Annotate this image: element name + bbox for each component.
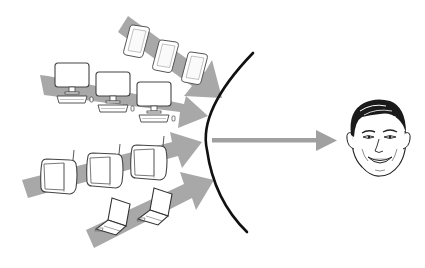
diagram-svg [0, 0, 425, 268]
diagram-canvas: Multiple devices converging to one perso… [0, 0, 425, 268]
desktop-computer-icon [137, 82, 175, 122]
person-face-icon [347, 99, 410, 176]
television-icon [41, 150, 77, 194]
phone-group [124, 25, 208, 85]
output-arrow [212, 130, 337, 151]
desktop-computer-icon [96, 72, 134, 112]
television-group [41, 136, 167, 194]
television-icon [87, 144, 123, 188]
television-icon [131, 136, 167, 180]
desktop-group [55, 63, 175, 122]
